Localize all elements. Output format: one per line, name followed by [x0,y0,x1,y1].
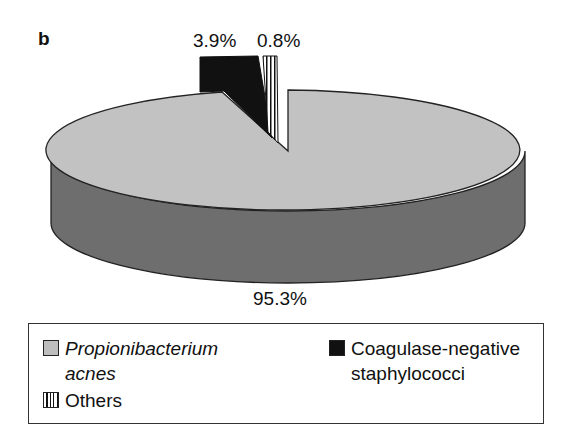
legend-label-p-acnes-1: Propionibacterium [65,336,218,361]
legend-label-cons-1: Coagulase-negative [351,336,520,361]
legend-item-p-acnes: Propionibacterium acnes [43,336,218,386]
slice-p-acnes [46,90,520,210]
label-others: 0.8% [257,30,300,52]
swatch-stripes-icon [43,392,59,408]
legend-label-cons-2: staphylococci [351,361,520,386]
legend-item-others: Others [43,388,122,413]
swatch-black-icon [329,340,345,356]
label-cons: 3.9% [193,30,236,52]
legend: Propionibacterium acnes Others Coagulase… [28,323,544,424]
label-p-acnes: 95.3% [253,288,307,310]
swatch-gray-icon [43,340,59,356]
legend-label-p-acnes-2: acnes [65,361,218,386]
legend-item-cons: Coagulase-negative staphylococci [329,336,520,386]
legend-label-others: Others [65,388,122,413]
